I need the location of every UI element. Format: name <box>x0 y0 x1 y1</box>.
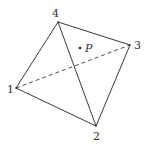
edge-1-4 <box>16 22 58 88</box>
edge-1-3-hidden <box>16 45 130 88</box>
edge-4-3 <box>58 22 130 45</box>
vertex-label-4: 4 <box>52 7 59 20</box>
point-p-dot <box>79 47 82 50</box>
vertex-label-1: 1 <box>7 83 14 96</box>
vertex-1-dot <box>15 87 17 89</box>
point-p-label: P <box>84 42 93 55</box>
vertex-label-2: 2 <box>93 130 100 143</box>
vertex-4-dot <box>57 21 59 23</box>
tetrahedron-diagram: 1 2 3 4 P <box>0 0 147 147</box>
vertex-2-dot <box>95 125 97 127</box>
edge-3-2 <box>96 45 130 126</box>
vertex-label-3: 3 <box>134 39 141 52</box>
vertex-3-dot <box>129 44 131 46</box>
